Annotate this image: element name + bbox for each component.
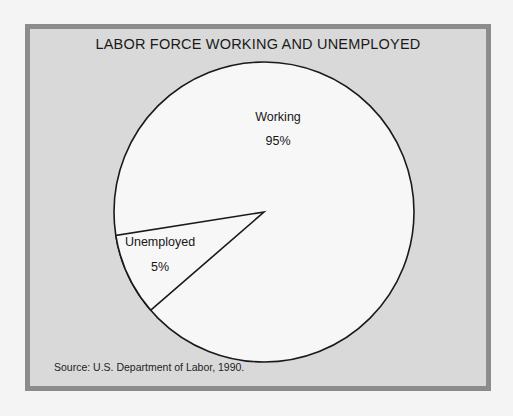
slice-label-working: Working [218,110,338,124]
source-note: Source: U.S. Department of Labor, 1990. [54,361,244,373]
slice-label-unemployed: Unemployed [95,235,225,249]
pie-chart-figure: LABOR FORCE WORKING AND UNEMPLOYED Worki… [0,0,513,416]
chart-frame: LABOR FORCE WORKING AND UNEMPLOYED Worki… [25,24,491,391]
pie-graphic [30,29,486,386]
plot-panel: LABOR FORCE WORKING AND UNEMPLOYED Worki… [30,29,486,386]
slice-value-unemployed: 5% [95,260,225,274]
slice-value-working: 95% [218,134,338,148]
